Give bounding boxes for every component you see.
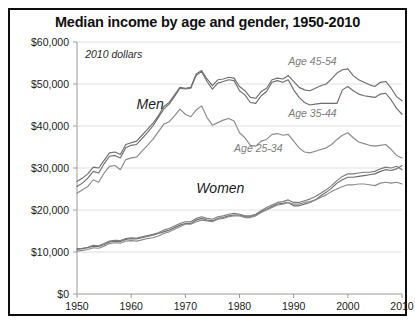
chart-annotation: Age 25-34 [234,142,282,154]
chart-annotation: 2010 dollars [85,48,142,60]
x-tick-label: 1990 [272,300,316,312]
y-tick-label: $30,000 [2,162,69,174]
y-tick-label: $20,000 [2,204,69,216]
data-series-group [77,69,402,251]
chart-annotation: Women [196,180,244,196]
y-tick-label: $0 [2,288,69,300]
chart-container: Median income by age and gender, 1950-20… [8,8,407,316]
x-tick-label: 1960 [109,300,153,312]
series-line [77,166,402,248]
series-line [77,69,402,182]
footer-note [250,320,410,330]
chart-annotation: Men [137,96,164,112]
y-tick-label: $50,000 [2,78,69,90]
x-tick-label: 1950 [55,300,99,312]
y-tick-label: $60,000 [2,36,69,48]
y-tick-label: $10,000 [2,246,69,258]
x-tick-label: 1980 [218,300,262,312]
chart-annotation: Age 35-44 [288,107,336,119]
x-tick-label: 1970 [163,300,207,312]
x-tick-label: 2010 [380,300,415,312]
axis-ticks-group [73,42,402,298]
y-tick-label: $40,000 [2,120,69,132]
series-line [77,165,402,249]
series-line [77,71,402,186]
x-tick-label: 2000 [326,300,370,312]
chart-annotation: Age 45-54 [288,55,336,67]
